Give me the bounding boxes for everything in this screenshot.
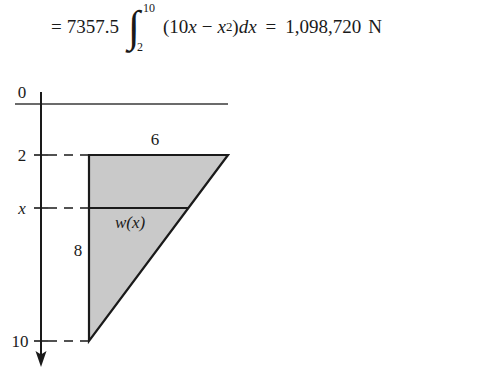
submerged-plate-diagram: 0 2 x 10 6 8 w(x) xyxy=(0,60,280,369)
integrand-open-paren: (10 xyxy=(163,16,188,38)
axis-label-10: 10 xyxy=(12,332,29,351)
equals-sign-left: = xyxy=(51,16,62,38)
equation-expression: = 7357.5 10 ∫ 2 (10 x − x 2 ) d x = 1,09… xyxy=(46,4,382,50)
equation-line: = 7357.5 10 ∫ 2 (10 x − x 2 ) d x = 1,09… xyxy=(0,0,501,60)
left-height-label-8: 8 xyxy=(74,241,83,260)
diagram-canvas: 0 2 x 10 6 8 w(x) xyxy=(0,60,280,369)
differential-d: d xyxy=(239,16,249,38)
strip-width-label-wx: w(x) xyxy=(115,213,146,232)
integrand-variable-first: x xyxy=(188,16,196,38)
triangular-plate-shape xyxy=(89,155,228,341)
integral-upper-limit: 10 xyxy=(143,2,155,14)
integrand-minus-sign: − xyxy=(202,16,213,38)
integral-with-limits: 10 ∫ 2 xyxy=(126,4,160,50)
equals-sign-right: = xyxy=(266,16,277,38)
figure-root: = 7357.5 10 ∫ 2 (10 x − x 2 ) d x = 1,09… xyxy=(0,0,501,369)
top-width-label-6: 6 xyxy=(151,130,160,149)
integral-lower-limit: 2 xyxy=(137,41,143,53)
axis-label-0: 0 xyxy=(18,83,27,102)
differential-variable: x xyxy=(248,16,256,38)
coefficient-value: 7357.5 xyxy=(67,16,119,38)
result-unit: N xyxy=(368,16,382,38)
integrand-variable-second: x xyxy=(217,16,225,38)
result-value: 1,098,720 xyxy=(285,16,361,38)
axis-label-x: x xyxy=(17,199,26,218)
axis-label-2: 2 xyxy=(18,146,27,165)
